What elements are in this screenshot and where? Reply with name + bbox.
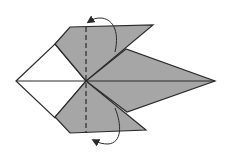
origami-diagram [0, 0, 228, 155]
